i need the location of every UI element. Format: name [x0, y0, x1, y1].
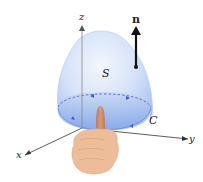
normal-label: n — [132, 14, 140, 25]
normal-base-dot — [134, 65, 138, 69]
z-axis-label: z — [79, 12, 84, 22]
y-arrow-icon — [182, 136, 188, 141]
surface-label: S — [102, 68, 110, 79]
normal-arrow-icon — [131, 26, 141, 35]
y-axis-label: y — [189, 134, 195, 144]
z-arrow-icon — [79, 25, 85, 31]
stokes-diagram — [0, 0, 203, 182]
x-arrow-icon — [25, 150, 31, 155]
curve-label: C — [149, 115, 157, 126]
x-axis-label: x — [16, 150, 22, 160]
